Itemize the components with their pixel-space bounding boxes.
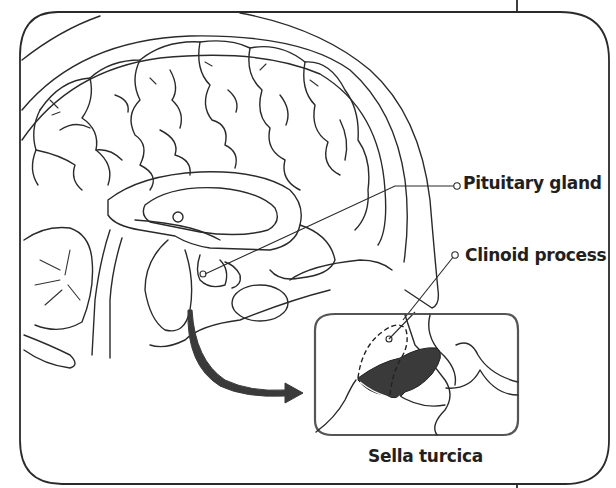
brain-diagram: Pituitary gland Clinoid process Sella tu… <box>0 0 616 488</box>
cerebellum <box>24 228 93 369</box>
label-sella-turcica: Sella turcica <box>368 446 483 466</box>
cerebrum-gyri <box>32 41 368 230</box>
corpus-callosum <box>108 172 335 279</box>
curved-arrow <box>188 310 303 403</box>
sella-turcica-inset <box>315 314 518 435</box>
pituitary-gland-shape <box>358 348 441 398</box>
label-clinoid-process: Clinoid process <box>465 245 606 265</box>
label-pituitary-gland: Pituitary gland <box>463 173 602 193</box>
